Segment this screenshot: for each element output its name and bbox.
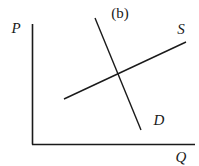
supply-demand-diagram: (b) P Q S D — [0, 0, 199, 166]
y-axis-label: P — [10, 20, 20, 36]
supply-label: S — [177, 21, 185, 37]
x-axis-label: Q — [176, 149, 187, 165]
panel-label: (b) — [111, 5, 129, 22]
demand-label: D — [153, 112, 165, 128]
